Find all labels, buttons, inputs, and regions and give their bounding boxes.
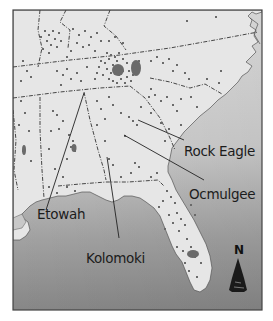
label-rock-eagle: Rock Eagle (184, 143, 255, 159)
label-etowah: Etowah (37, 206, 85, 222)
label-ocmulgee: Ocmulgee (189, 186, 255, 202)
label-kolomoki: Kolomoki (86, 250, 145, 266)
site-distribution-map: Rock Eagle Ocmulgee Etowah Kolomoki N (0, 0, 273, 321)
north-label: N (234, 243, 244, 257)
